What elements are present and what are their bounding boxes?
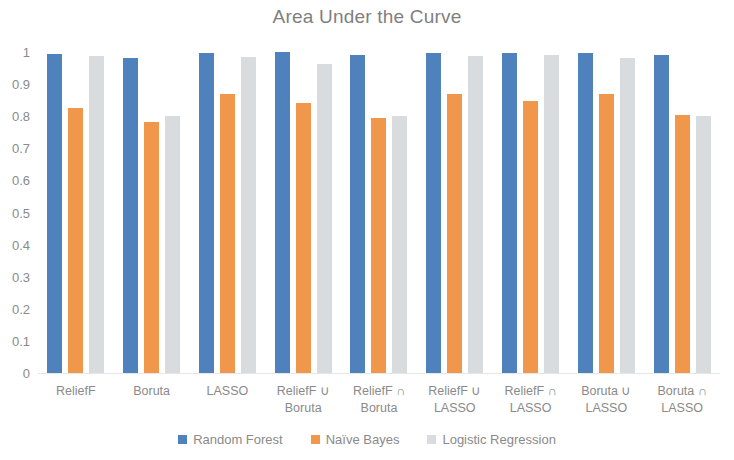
bar-group: Boruta ∩LASSO [644,52,720,373]
bar-group-bars [265,52,341,373]
bar-group-bars [417,52,493,373]
bar [47,54,62,373]
x-axis-category-label-line: Boruta [341,400,417,417]
bar [165,116,180,373]
x-axis-category-label-line: ReliefF ∩ [493,383,569,400]
bar [68,108,83,373]
bar-group-bars [38,52,114,373]
y-axis-tick-label: 0.5 [12,205,30,220]
x-axis-category-label-line: LASSO [493,400,569,417]
x-axis-category-label: Boruta [114,383,190,400]
x-axis-category-label-line: LASSO [190,383,266,400]
bar [241,57,256,373]
x-axis-category-label: ReliefF ∪LASSO [417,383,493,417]
x-axis-category-label-line: Boruta ∩ [644,383,720,400]
x-axis-category-label: ReliefF [38,383,114,400]
bar-group: ReliefF [38,52,114,373]
x-axis-category-label: Boruta ∪LASSO [568,383,644,417]
bar [317,64,332,373]
y-axis-tick-label: 0.6 [12,173,30,188]
x-axis-category-label-line: LASSO [644,400,720,417]
x-axis-category-label-line: ReliefF ∪ [265,383,341,400]
bar-group: ReliefF ∪Boruta [265,52,341,373]
bar [371,118,386,373]
bar [350,55,365,373]
bar-group: Boruta ∪LASSO [568,52,644,373]
y-axis-tick-label: 0.2 [12,301,30,316]
x-axis-category-label-line: Boruta ∪ [568,383,644,400]
bar-group: LASSO [190,52,266,373]
x-axis-category-label-line: ReliefF ∪ [417,383,493,400]
bar [144,122,159,373]
y-axis-tick-label: 1 [23,45,30,60]
bar [468,56,483,373]
bar-group-bars [568,52,644,373]
x-axis-category-label: ReliefF ∪Boruta [265,383,341,417]
bar [392,116,407,373]
y-axis-tick-label: 0.1 [12,333,30,348]
bar-group-bars [341,52,417,373]
y-axis-tick-label: 0.3 [12,269,30,284]
x-axis-category-label-line: Boruta [265,400,341,417]
chart-container: Area Under the Curve 10.90.80.70.60.50.4… [0,0,734,460]
legend-swatch-icon [311,435,320,444]
legend-swatch-icon [427,435,436,444]
bar-group-bars [190,52,266,373]
y-axis-tick-label: 0.8 [12,109,30,124]
legend-item-label: Naïve Bayes [326,432,400,447]
bar [544,55,559,373]
bar-group: ReliefF ∩Boruta [341,52,417,373]
legend-swatch-icon [178,435,187,444]
bar [599,94,614,373]
y-axis-tick-label: 0.7 [12,141,30,156]
bar [620,58,635,373]
bar [502,53,517,373]
plot-area: ReliefFBorutaLASSOReliefF ∪BorutaReliefF… [38,52,720,373]
legend-item-label: Random Forest [193,432,283,447]
x-axis-category-label-line: LASSO [417,400,493,417]
bar-group: ReliefF ∪LASSO [417,52,493,373]
bar-group: Boruta [114,52,190,373]
chart-title: Area Under the Curve [0,6,734,28]
x-axis-category-label: ReliefF ∩Boruta [341,383,417,417]
y-axis-tick-label: 0.4 [12,237,30,252]
y-axis: 10.90.80.70.60.50.40.30.20.10 [0,52,36,373]
chart-legend: Random ForestNaïve BayesLogistic Regress… [0,432,734,447]
legend-item-label: Logistic Regression [442,432,555,447]
x-axis-category-label: ReliefF ∩LASSO [493,383,569,417]
x-axis-category-label-line: ReliefF [38,383,114,400]
bar [675,115,690,373]
bar [696,116,711,373]
x-axis-category-label-line: Boruta [114,383,190,400]
legend-item[interactable]: Logistic Regression [427,432,555,447]
bar [199,53,214,373]
x-axis-category-label: Boruta ∩LASSO [644,383,720,417]
bar-group: ReliefF ∩LASSO [493,52,569,373]
bar [275,52,290,373]
bar [578,53,593,373]
x-axis-category-label-line: LASSO [568,400,644,417]
x-axis-category-label: LASSO [190,383,266,400]
legend-item[interactable]: Naïve Bayes [311,432,400,447]
x-axis-line [38,373,720,374]
bar [123,58,138,373]
y-axis-tick-label: 0 [23,366,30,381]
legend-item[interactable]: Random Forest [178,432,283,447]
bar [220,94,235,373]
bar-group-bars [114,52,190,373]
bar [523,101,538,373]
bar [89,56,104,373]
bar [426,53,441,373]
bar-group-bars [493,52,569,373]
bar [447,94,462,373]
y-axis-tick-label: 0.9 [12,77,30,92]
bar-group-bars [644,52,720,373]
bar [296,103,311,373]
x-axis-category-label-line: ReliefF ∩ [341,383,417,400]
bar [654,55,669,373]
